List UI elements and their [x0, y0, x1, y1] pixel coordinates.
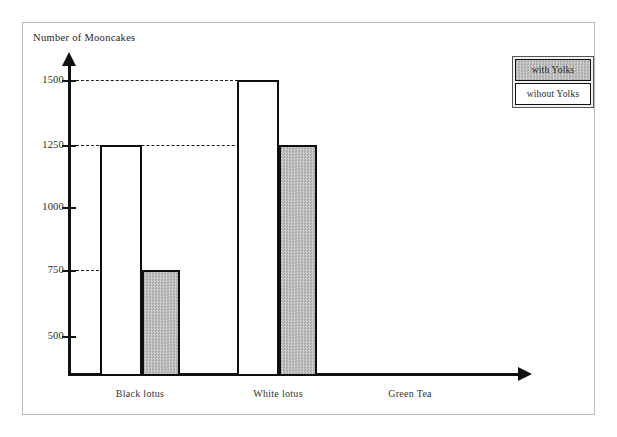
y-axis-arrow-icon — [62, 52, 76, 66]
x-category-label-black-lotus: Black lotus — [65, 388, 215, 399]
y-axis-line — [68, 64, 71, 376]
bar-black-lotus-without-yolks — [100, 145, 142, 376]
bar-chart: Number of Mooncakes 1500 1250 1000 750 5… — [0, 0, 617, 437]
y-tick-label-1000: 1000 — [20, 201, 64, 212]
y-tick-mark-1000 — [62, 207, 76, 209]
y-tick-label-500: 500 — [20, 330, 64, 341]
x-category-label-green-tea: Green Tea — [335, 388, 485, 399]
y-tick-label-1500: 1500 — [20, 74, 64, 85]
gridline-1500 — [71, 80, 238, 81]
bar-white-lotus-with-yolks — [279, 145, 317, 376]
x-axis-arrow-icon — [518, 367, 532, 381]
y-tick-mark-500 — [62, 336, 76, 338]
legend-item-without-yolks[interactable]: wihout Yolks — [515, 83, 591, 105]
y-tick-label-1250: 1250 — [20, 139, 64, 150]
legend-item-with-yolks[interactable]: with Yolks — [515, 59, 591, 81]
bar-black-lotus-with-yolks — [142, 270, 180, 376]
bar-white-lotus-without-yolks — [237, 80, 279, 376]
legend-label-without-yolks: wihout Yolks — [527, 89, 580, 99]
legend-label-with-yolks: with Yolks — [532, 65, 575, 75]
y-tick-label-750: 750 — [20, 264, 64, 275]
legend: with Yolks wihout Yolks — [512, 56, 594, 108]
x-category-label-white-lotus: White lotus — [203, 388, 353, 399]
y-axis-title: Number of Mooncakes — [33, 32, 136, 43]
